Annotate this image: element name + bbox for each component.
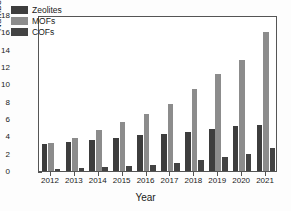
y-tick-label: 8 — [0, 99, 10, 107]
bar-cofs-2015 — [126, 166, 132, 171]
y-tick-label: 2 — [0, 151, 10, 159]
bar-mofs-2013 — [72, 138, 78, 171]
y-tick-mark — [38, 172, 42, 173]
bar-cofs-2019 — [222, 157, 228, 171]
bar-cofs-2013 — [79, 168, 85, 171]
plot-area — [38, 16, 277, 172]
figure: Number of papers (× 10⁵) 024681012141618… — [0, 0, 291, 211]
bar-zeolites-2020 — [233, 126, 239, 171]
bar-mofs-2019 — [215, 74, 221, 171]
bar-cofs-2021 — [270, 148, 276, 171]
bar-zeolites-2012 — [42, 144, 48, 171]
bar-mofs-2020 — [239, 60, 245, 171]
x-tick-label: 2021 — [250, 176, 280, 185]
bar-zeolites-2017 — [161, 134, 167, 171]
legend-item-cofs: COFs — [11, 27, 62, 37]
bar-cofs-2014 — [102, 167, 108, 171]
y-tick-label: 10 — [0, 81, 10, 89]
bar-zeolites-2019 — [209, 129, 215, 171]
bar-series-container — [39, 17, 276, 171]
bar-cofs-2018 — [198, 160, 204, 171]
legend-swatch-icon — [11, 17, 28, 25]
bar-mofs-2012 — [48, 143, 54, 171]
bar-cofs-2017 — [174, 163, 180, 171]
bar-mofs-2015 — [120, 122, 126, 171]
bar-cofs-2012 — [55, 169, 61, 171]
bar-cofs-2020 — [246, 154, 252, 171]
bar-zeolites-2013 — [66, 142, 72, 171]
legend-label: Zeolites — [32, 6, 62, 15]
bar-mofs-2016 — [144, 114, 150, 171]
legend-label: COFs — [32, 28, 54, 37]
bar-zeolites-2014 — [89, 140, 95, 171]
y-tick-label: 0 — [0, 168, 10, 176]
legend-item-zeolites: Zeolites — [11, 5, 62, 15]
bar-mofs-2014 — [96, 130, 102, 171]
y-tick-label: 4 — [0, 133, 10, 141]
x-axis-title: Year — [0, 192, 291, 203]
bar-zeolites-2021 — [257, 125, 263, 171]
y-tick-label: 6 — [0, 116, 10, 124]
legend-item-mofs: MOFs — [11, 16, 62, 26]
bar-zeolites-2018 — [185, 132, 191, 171]
legend: ZeolitesMOFsCOFs — [8, 3, 65, 40]
legend-swatch-icon — [11, 28, 28, 36]
bar-mofs-2021 — [263, 32, 269, 171]
bar-zeolites-2015 — [113, 138, 119, 171]
bar-zeolites-2016 — [137, 135, 143, 171]
bar-mofs-2017 — [168, 104, 174, 171]
y-tick-label: 14 — [0, 47, 10, 55]
bar-cofs-2016 — [150, 165, 156, 172]
legend-label: MOFs — [32, 17, 55, 26]
legend-swatch-icon — [11, 6, 28, 14]
y-tick-label: 12 — [0, 64, 10, 72]
bar-mofs-2018 — [192, 89, 198, 171]
